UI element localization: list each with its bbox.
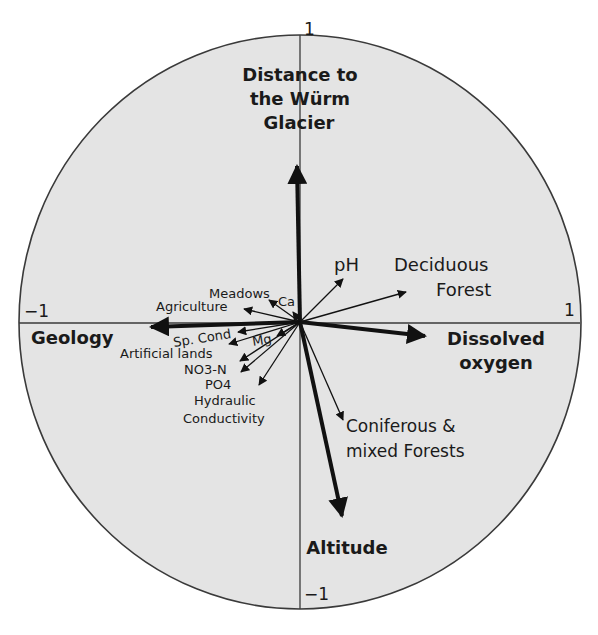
label-deciduous-line1: Deciduous bbox=[394, 254, 488, 275]
label-hydraulic-line1: Hydraulic bbox=[194, 393, 256, 408]
label-coniferous-line1: Coniferous & bbox=[346, 416, 456, 436]
label-altitude: Altitude bbox=[306, 537, 387, 558]
label-deciduous-line2: Forest bbox=[436, 279, 491, 300]
label-ca: Ca bbox=[278, 294, 295, 309]
tick-y-max: 1 bbox=[304, 19, 315, 39]
label-po4: PO4 bbox=[205, 377, 231, 392]
label-oxygen-line2: oxygen bbox=[459, 352, 533, 373]
label-no3n: NO3-N bbox=[184, 362, 227, 377]
label-coniferous-line2: mixed Forests bbox=[346, 441, 465, 461]
label-oxygen-line1: Dissolved bbox=[447, 328, 545, 349]
label-ph: pH bbox=[334, 254, 359, 275]
label-artificial: Artificial lands bbox=[120, 346, 213, 361]
tick-x-max: 1 bbox=[564, 300, 575, 320]
label-glacier-line3: Glacier bbox=[263, 112, 334, 133]
label-agriculture: Agriculture bbox=[156, 299, 228, 314]
label-mg: Mg bbox=[251, 331, 273, 349]
label-geology: Geology bbox=[31, 327, 114, 348]
tick-x-min: −1 bbox=[24, 301, 49, 321]
label-hydraulic-line2: Conductivity bbox=[183, 411, 265, 426]
label-glacier-line1: Distance to bbox=[242, 64, 358, 85]
tick-y-min: −1 bbox=[304, 584, 329, 604]
correlation-circle-chart: 1 −1 −1 1 Distance to the Würm Glacier A… bbox=[0, 0, 598, 635]
label-glacier-line2: the Würm bbox=[250, 88, 350, 109]
